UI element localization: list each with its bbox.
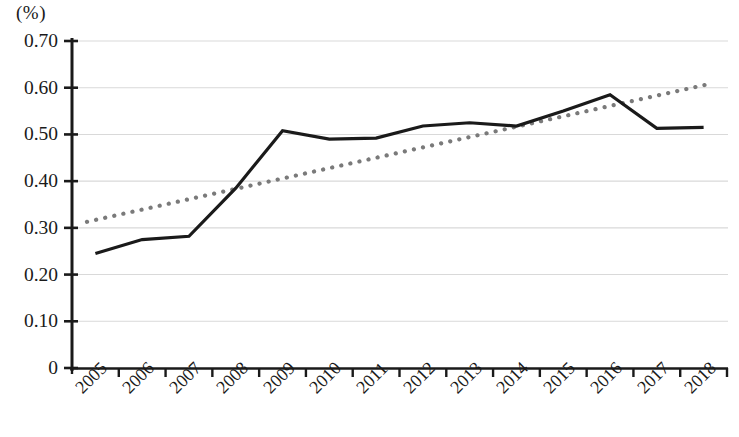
gridlines-group [72,41,728,321]
y-axis-tick-label: 0.10 [0,311,58,331]
y-axis-tick-label: 0.40 [0,171,58,191]
y-axis-tick-label: 0.30 [0,218,58,238]
data-series-line [95,95,703,254]
y-axis-tick-label: 0 [0,358,58,378]
chart-container: (%) 0.700.600.500.400.300.200.100 200520… [0,0,739,437]
y-axis-tick-label: 0.60 [0,78,58,98]
y-axis-tick-label: 0.70 [0,31,58,51]
trendline-series [87,84,709,222]
y-axis-tick-label: 0.20 [0,265,58,285]
y-axis-tick-label: 0.50 [0,124,58,144]
